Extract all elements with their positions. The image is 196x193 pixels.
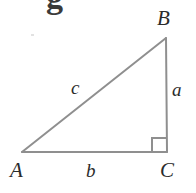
right-angle-marker: [152, 138, 166, 152]
side-label-b: b: [86, 161, 96, 180]
side-a-line: [166, 38, 167, 152]
side-label-c: c: [71, 78, 79, 97]
vertex-label-a: A: [10, 160, 23, 181]
vertex-label-b: B: [157, 8, 170, 29]
side-label-a: a: [172, 80, 182, 99]
side-c-line: [22, 38, 166, 152]
right-triangle-figure: g B A C a b c: [0, 0, 196, 193]
vertex-label-c: C: [160, 160, 174, 181]
